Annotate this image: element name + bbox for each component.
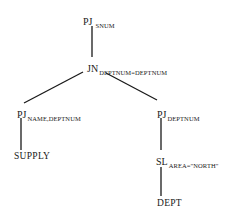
node-subscript: NAME,DEPTNUM <box>27 115 80 122</box>
node-join: JNDEPTNUM=DEPTNUM <box>87 59 167 75</box>
node-pj-snum: PJSNUM <box>83 12 115 28</box>
node-supply: SUPPLY <box>14 152 50 162</box>
node-operator: PJ <box>157 109 166 120</box>
node-subscript: DEPTNUM <box>167 115 199 122</box>
node-subscript: SNUM <box>95 22 114 29</box>
node-sl-area: SLAREA="NORTH" <box>156 152 219 168</box>
node-pj-deptnum: PJDEPTNUM <box>157 105 200 121</box>
node-operator: PJ <box>17 109 26 120</box>
node-operator: JN <box>87 63 98 74</box>
node-subscript: AREA="NORTH" <box>169 162 219 169</box>
node-operator: SL <box>156 156 168 167</box>
node-dept: DEPT <box>157 199 182 209</box>
node-operator: PJ <box>83 16 92 27</box>
edge-jn-to-pj-deptnum <box>106 73 157 100</box>
edge-jn-to-pj-name-deptnum <box>24 72 83 103</box>
node-pj-name-deptnum: PJNAME,DEPTNUM <box>17 105 81 121</box>
node-subscript: DEPTNUM=DEPTNUM <box>99 69 167 76</box>
